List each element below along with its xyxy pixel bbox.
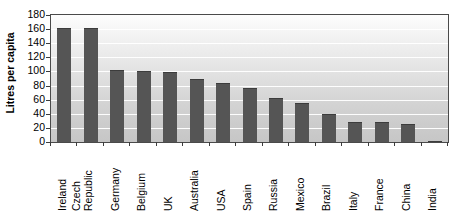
x-axis-tick xyxy=(76,142,77,146)
y-axis-tick-label: 140 xyxy=(27,37,45,48)
bar xyxy=(137,71,151,142)
y-axis-title: Litres per capita xyxy=(0,0,20,145)
bar xyxy=(216,83,230,142)
bar xyxy=(401,124,415,142)
bar-chart: Litres per capita 1801601401201008060402… xyxy=(0,0,462,212)
x-axis-tick-label: UK xyxy=(163,196,174,211)
bar xyxy=(243,88,257,142)
y-axis-tick-label: 120 xyxy=(27,51,45,62)
x-axis-tick xyxy=(447,142,448,146)
x-axis-tick-label: China xyxy=(401,184,412,211)
bar xyxy=(322,114,336,142)
plot-area xyxy=(50,14,449,143)
y-axis-tick-label: 80 xyxy=(33,79,45,90)
x-axis-tick xyxy=(368,142,369,146)
y-axis-tick-label: 20 xyxy=(33,121,45,132)
x-axis-tick xyxy=(262,142,263,146)
x-axis-tick-label-line: Czech xyxy=(71,170,83,211)
x-axis-tick-label: Spain xyxy=(242,184,253,211)
gridline xyxy=(51,43,448,44)
x-axis-tick-label: Brazil xyxy=(321,185,332,211)
gridline xyxy=(51,57,448,58)
x-axis-tick-labels: IrelandCzechRepublicGermanyBelgiumUKAust… xyxy=(50,147,449,211)
gridline xyxy=(51,29,448,30)
bar xyxy=(375,122,389,142)
x-axis-tick-label: Mexico xyxy=(295,178,306,211)
x-axis-tick-label: Germany xyxy=(110,168,121,211)
x-axis-tick-label: Ireland xyxy=(57,179,68,211)
y-axis-tick-label: 40 xyxy=(33,107,45,118)
bar xyxy=(269,98,283,142)
x-axis-tick xyxy=(421,142,422,146)
x-axis-tick-label: USA xyxy=(216,189,227,211)
x-axis-tick-label: Australia xyxy=(189,170,200,211)
bar xyxy=(190,79,204,142)
x-axis-tick xyxy=(103,142,104,146)
x-axis-tick xyxy=(235,142,236,146)
x-axis-tick xyxy=(182,142,183,146)
x-axis-tick xyxy=(209,142,210,146)
bar xyxy=(57,28,71,142)
y-axis-tick-labels: 180160140120100806040200 xyxy=(20,8,48,148)
x-axis-tick-label: Russia xyxy=(268,179,279,211)
y-axis-tick-label: 0 xyxy=(39,136,45,147)
y-axis-tick-label: 180 xyxy=(27,9,45,20)
bar xyxy=(295,103,309,142)
bar xyxy=(110,70,124,142)
bar xyxy=(348,122,362,142)
y-axis-title-text: Litres per capita xyxy=(4,32,16,113)
x-axis-tick xyxy=(129,142,130,146)
bar xyxy=(163,72,177,142)
y-axis-tick-label: 100 xyxy=(27,65,45,76)
x-axis-tick-label: Italy xyxy=(348,192,359,211)
x-axis-tick-label: France xyxy=(374,178,385,211)
x-axis-tick-label: India xyxy=(427,188,438,211)
x-axis-tick xyxy=(156,142,157,146)
x-axis-tick xyxy=(50,142,51,146)
x-axis-tick xyxy=(394,142,395,146)
x-axis-tick-label: CzechRepublic xyxy=(71,170,94,211)
x-axis-tick xyxy=(315,142,316,146)
y-axis-tick-label: 60 xyxy=(33,93,45,104)
x-axis-tick xyxy=(288,142,289,146)
bar xyxy=(84,28,98,142)
x-axis-tick-label: Belgium xyxy=(136,173,147,211)
x-axis-tick-label-line: Republic xyxy=(83,170,95,211)
y-axis-tick-label: 160 xyxy=(27,23,45,34)
x-axis-tick xyxy=(341,142,342,146)
